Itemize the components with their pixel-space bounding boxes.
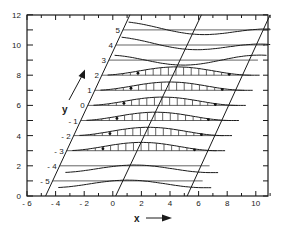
inflection-dot xyxy=(130,87,133,90)
y-tick-label: 12 xyxy=(12,11,21,20)
inflection-dot xyxy=(137,72,140,75)
x-axis-label: x xyxy=(134,213,140,224)
y-tick-label: 8 xyxy=(17,71,22,80)
inflection-dot xyxy=(214,103,217,106)
x-axis-ticks: - 6- 4- 20246810 xyxy=(22,15,270,208)
inflection-dot xyxy=(228,73,231,76)
row-label: - 1 xyxy=(68,117,78,126)
sheared-wave-diagram: - 6- 4- 20246810 024681012 543210- 1- 2-… xyxy=(0,0,284,231)
y-tick-label: 6 xyxy=(17,101,22,110)
x-tick-label: 4 xyxy=(168,199,173,208)
x-tick-label: 10 xyxy=(251,199,260,208)
x-tick-label: 8 xyxy=(225,199,230,208)
x-tick-label: - 2 xyxy=(80,199,90,208)
right-arrow-icon xyxy=(146,215,172,222)
y-tick-label: 2 xyxy=(17,162,22,171)
wave-rows xyxy=(53,22,270,188)
row-label: 3 xyxy=(101,56,106,65)
diagonal-up-arrow-icon xyxy=(69,70,85,101)
row-label: 0 xyxy=(80,101,85,110)
inflection-dot xyxy=(193,148,196,151)
displacement-curve xyxy=(129,22,271,34)
row-label: 4 xyxy=(108,41,113,50)
row-label: - 3 xyxy=(54,147,64,156)
x-tick-label: 6 xyxy=(196,199,201,208)
y-axis-label: y xyxy=(62,104,68,115)
y-axis-ticks: 024681012 xyxy=(12,11,268,201)
x-tick-label: - 4 xyxy=(51,199,61,208)
row-label: 2 xyxy=(94,71,99,80)
inflection-dot xyxy=(123,102,126,105)
inflection-dot xyxy=(221,88,224,91)
row-label: - 4 xyxy=(47,162,57,171)
row-label: - 2 xyxy=(61,132,71,141)
inflection-dot xyxy=(109,132,112,135)
inflection-dot xyxy=(207,118,210,121)
row-labels: 543210- 1- 2- 3- 4- 5 xyxy=(40,26,120,186)
y-tick-label: 4 xyxy=(17,132,22,141)
row-label: 5 xyxy=(115,26,120,35)
inflection-dot xyxy=(102,147,105,150)
row-label: 1 xyxy=(87,86,92,95)
inflection-dot xyxy=(200,133,203,136)
displacement-curve xyxy=(122,37,271,50)
inflection-dot xyxy=(116,117,119,120)
row-label: - 5 xyxy=(40,177,50,186)
y-tick-label: 0 xyxy=(17,192,22,201)
y-tick-label: 10 xyxy=(12,41,21,50)
x-tick-label: 2 xyxy=(139,199,144,208)
x-tick-label: - 6 xyxy=(22,199,32,208)
x-tick-label: 0 xyxy=(111,199,116,208)
